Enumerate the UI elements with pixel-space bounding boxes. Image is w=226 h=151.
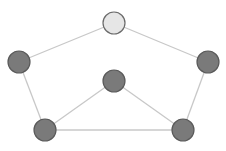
node-right <box>197 51 219 73</box>
edge-center-bottom-right <box>114 81 183 130</box>
node-center <box>103 70 125 92</box>
graph-diagram <box>0 0 226 151</box>
edge-top-right <box>114 23 208 62</box>
node-top <box>103 12 125 34</box>
node-left <box>8 51 30 73</box>
node-bottom-left <box>34 119 56 141</box>
node-bottom-right <box>172 119 194 141</box>
edge-top-left <box>19 23 114 62</box>
nodes-layer <box>8 12 219 141</box>
edge-center-bottom-left <box>45 81 114 130</box>
